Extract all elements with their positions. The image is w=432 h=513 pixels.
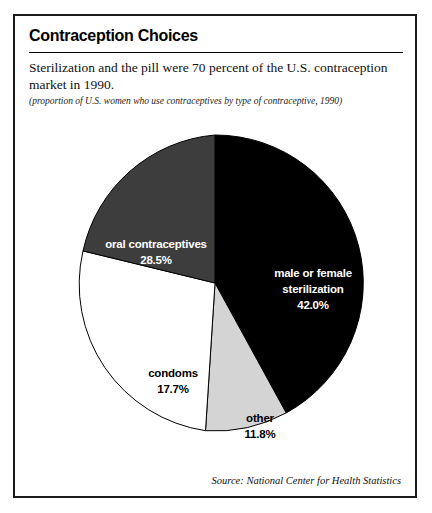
pie-value-condoms: 17.7% xyxy=(113,381,233,397)
figure-panel: Contraception Choices Sterilization and … xyxy=(13,14,417,498)
pie-label-other: other 11.8% xyxy=(208,410,312,442)
pie-label-sterilization: male or female sterilization 42.0% xyxy=(243,265,383,313)
pie-label-condoms-text: condoms xyxy=(148,367,198,379)
pie-label-sterilization-line1: male or female xyxy=(274,267,352,279)
pie-label-other-text: other xyxy=(246,412,274,424)
pie-label-sterilization-line2: sterilization xyxy=(282,283,343,295)
pie-value-oral-contraceptives: 28.5% xyxy=(77,252,235,268)
pie-value-other: 11.8% xyxy=(208,426,312,442)
pie-label-condoms: condoms 17.7% xyxy=(113,365,233,397)
pie-label-oral-contraceptives: oral contraceptives 28.5% xyxy=(77,236,235,268)
chart-note: (proportion of U.S. women who use contra… xyxy=(29,96,407,106)
title-divider xyxy=(29,52,403,53)
chart-source: Source: National Center for Health Stati… xyxy=(212,475,401,486)
chart-subhead: Sterilization and the pill were 70 perce… xyxy=(29,60,407,93)
page-title: Contraception Choices xyxy=(29,27,198,45)
pie-chart: male or female sterilization 42.0% oral … xyxy=(15,120,415,450)
pie-value-sterilization: 42.0% xyxy=(243,297,383,313)
pie-label-oral-contraceptives-text: oral contraceptives xyxy=(105,238,207,250)
